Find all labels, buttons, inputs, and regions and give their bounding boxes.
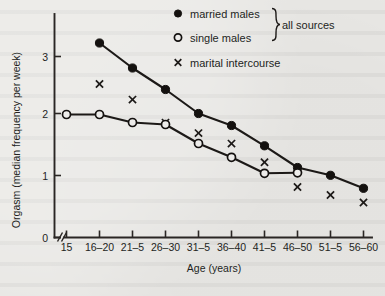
y-axis-title: Orgasm (median frequency per week) (10, 52, 22, 228)
x-tick-label-3: 26–30 (151, 241, 180, 253)
married-males-point (227, 121, 235, 129)
x-tick-label-5: 36–40 (217, 241, 246, 253)
y-tick-label-3: 3 (42, 51, 48, 63)
married-males-point (128, 64, 136, 72)
married-males-point (161, 85, 169, 93)
y-axis-ticks (55, 57, 62, 238)
marital-intercourse-marker (261, 159, 268, 166)
x-tick-label-4: 31–5 (187, 241, 211, 253)
x-tick-label-9: 56–60 (349, 241, 378, 253)
single-males-point (129, 119, 137, 127)
marital-intercourse-marker (195, 130, 202, 137)
x-tick-label-1: 16–20 (85, 241, 114, 253)
x-axis-ticks (67, 231, 364, 238)
marital-intercourse-marker (294, 183, 301, 190)
married-males-point (194, 109, 202, 117)
marital-intercourse-marker (327, 191, 334, 198)
x-tick-label-2: 21–5 (121, 241, 145, 253)
single-males-point (162, 121, 170, 129)
legend-label-single-males: single males (190, 32, 252, 44)
marital-intercourse-marker (360, 199, 367, 206)
marital-intercourse-marker (96, 80, 103, 87)
series-marital-intercourse (96, 80, 367, 206)
single-males-point (195, 140, 203, 148)
single-males-point (294, 169, 302, 177)
single-males-point (228, 153, 236, 161)
y-tick-label-1: 1 (42, 170, 48, 182)
x-tick-label-7: 46–50 (283, 241, 312, 253)
legend-marker-cross-icon (175, 59, 182, 66)
legend-marker-filled-circle-icon (174, 10, 181, 17)
married-males-point (326, 171, 334, 179)
single-males-point (96, 111, 104, 119)
married-males-point (260, 142, 268, 150)
single-males-point (261, 169, 269, 177)
x-axis-title: Age (years) (187, 262, 241, 274)
married-males-point (95, 39, 103, 47)
legend-label-married-males: married males (190, 8, 260, 20)
single-males-point (63, 111, 71, 119)
legend-group-brace (272, 9, 280, 41)
x-tick-label-6: 41–5 (253, 241, 277, 253)
chart-legend: married males single males all sources m… (174, 8, 335, 69)
legend-marker-open-circle-icon (174, 34, 181, 41)
y-tick-label-0: 0 (42, 232, 48, 244)
x-tick-label-8: 51–5 (319, 241, 343, 253)
chart-figure: 0 1 2 3 15 16–20 21–5 26–30 31–5 36–40 4… (0, 0, 385, 296)
married-males-point (359, 184, 367, 192)
axes (55, 14, 373, 242)
marital-intercourse-marker (129, 96, 136, 103)
x-axis-tick-labels: 15 16–20 21–5 26–30 31–5 36–40 41–5 46–5… (61, 241, 379, 253)
y-tick-label-2: 2 (42, 108, 48, 120)
chart-svg: 0 1 2 3 15 16–20 21–5 26–30 31–5 36–40 4… (0, 0, 385, 296)
y-axis-tick-labels: 0 1 2 3 (42, 51, 48, 244)
legend-label-marital-intercourse: marital intercourse (190, 57, 280, 69)
legend-group-label: all sources (282, 19, 335, 31)
marital-intercourse-marker (228, 140, 235, 147)
x-tick-label-0: 15 (61, 241, 73, 253)
